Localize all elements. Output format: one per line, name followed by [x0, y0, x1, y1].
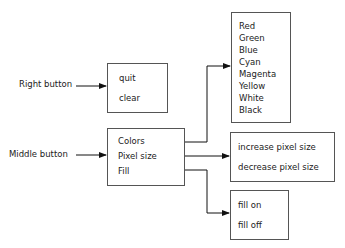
right-button-menu: quit clear — [107, 63, 168, 113]
connector-arrows — [0, 0, 345, 248]
menu-item-fill[interactable]: Fill — [118, 167, 129, 176]
fill-submenu: fill on fill off — [230, 190, 289, 240]
menu-item-pixel-size[interactable]: Pixel size — [118, 152, 157, 161]
menu-item-fill-off[interactable]: fill off — [238, 221, 262, 230]
menu-item-quit[interactable]: quit — [119, 74, 135, 83]
color-item-cyan[interactable]: Cyan — [239, 58, 261, 67]
menu-item-fill-on[interactable]: fill on — [238, 201, 261, 210]
right-button-label: Right button — [19, 80, 72, 89]
menu-item-increase-pixel-size[interactable]: increase pixel size — [238, 143, 316, 152]
color-item-white[interactable]: White — [239, 94, 264, 103]
middle-button-menu: Colors Pixel size Fill — [107, 128, 185, 186]
color-item-black[interactable]: Black — [239, 106, 262, 115]
color-item-red[interactable]: Red — [239, 22, 255, 31]
menu-item-clear[interactable]: clear — [119, 94, 140, 103]
menu-item-decrease-pixel-size[interactable]: decrease pixel size — [238, 163, 319, 172]
color-item-yellow[interactable]: Yellow — [239, 82, 265, 91]
color-item-green[interactable]: Green — [239, 34, 265, 43]
color-item-magenta[interactable]: Magenta — [239, 70, 276, 79]
middle-button-label: Middle button — [9, 150, 68, 159]
menu-item-colors[interactable]: Colors — [118, 137, 145, 146]
pixel-size-submenu: increase pixel size decrease pixel size — [230, 132, 335, 182]
colors-submenu: Red Green Blue Cyan Magenta Yellow White… — [231, 12, 291, 123]
color-item-blue[interactable]: Blue — [239, 46, 258, 55]
